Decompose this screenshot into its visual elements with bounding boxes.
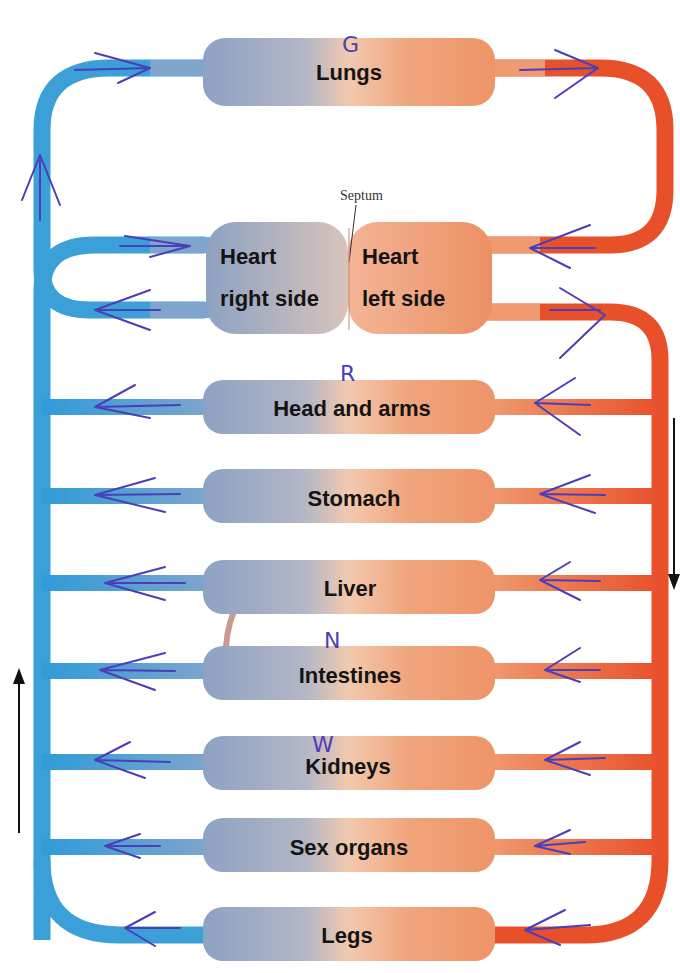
organ-label-legs: Legs bbox=[321, 923, 372, 948]
pen-arrow-right-icon bbox=[550, 288, 605, 358]
head-and-arms-box: Head and arms bbox=[203, 380, 495, 434]
organ-label-lungs: Lungs bbox=[316, 60, 382, 85]
heart-right-side: Heart right side bbox=[206, 222, 348, 334]
pen-arrow-up-icon bbox=[22, 155, 60, 220]
organ-label-kidneys: Kidneys bbox=[305, 754, 391, 779]
pen-arrow-left-icon bbox=[95, 290, 160, 330]
heart-left-side: Heart left side bbox=[348, 222, 492, 334]
organ-label-head-and-arms: Head and arms bbox=[273, 396, 431, 421]
organ-label-liver: Liver bbox=[324, 576, 377, 601]
flow-direction-up-arrow-icon bbox=[13, 668, 25, 833]
pen-arrow-left-icon bbox=[540, 475, 605, 513]
legs-vein bbox=[42, 860, 210, 935]
annotation-lungs-letter: G bbox=[342, 32, 359, 57]
heart-right-line2: right side bbox=[220, 286, 319, 311]
organ-label-intestines: Intestines bbox=[299, 663, 402, 688]
legs-box: Legs bbox=[203, 907, 495, 961]
circulation-diagram: Lungs Heart right side Heart left side S… bbox=[0, 0, 680, 973]
sex-organs-box: Sex organs bbox=[203, 818, 495, 872]
vena-cava bbox=[42, 245, 205, 940]
pen-arrow-left-icon bbox=[95, 478, 180, 512]
pen-arrow-left-icon bbox=[105, 567, 185, 600]
liver-box: Liver bbox=[203, 560, 495, 614]
annotation-intestines-letter: N bbox=[324, 628, 340, 653]
annotation-head-letter: R bbox=[340, 361, 355, 386]
annotation-kidneys-letter: W bbox=[312, 732, 334, 757]
kidneys-box: Kidneys bbox=[203, 736, 495, 790]
organ-label-stomach: Stomach bbox=[308, 486, 401, 511]
pulmonary-vein bbox=[480, 68, 665, 245]
intestines-box: Intestines bbox=[203, 646, 495, 700]
septum-label: Septum bbox=[340, 188, 383, 203]
stomach-box: Stomach bbox=[203, 469, 495, 523]
pulmonary-artery bbox=[42, 68, 210, 310]
organ-label-sex-organs: Sex organs bbox=[290, 835, 409, 860]
pen-arrow-left-icon bbox=[540, 562, 600, 600]
heart-left-line2: left side bbox=[362, 286, 445, 311]
heart-right-line1: Heart bbox=[220, 244, 277, 269]
flow-direction-down-arrow-icon bbox=[668, 418, 680, 590]
organ-branches bbox=[42, 60, 660, 855]
heart-left-line1: Heart bbox=[362, 244, 419, 269]
